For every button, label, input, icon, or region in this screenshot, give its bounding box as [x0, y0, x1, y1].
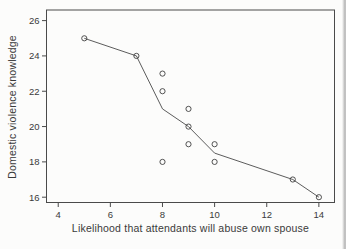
- x-tick-label: 8: [160, 209, 165, 220]
- data-point: [186, 142, 191, 147]
- mean-trace-line: [84, 38, 319, 197]
- y-tick-label: 22: [29, 86, 40, 97]
- plot-border: [47, 10, 335, 203]
- x-tick-label: 4: [56, 209, 61, 220]
- x-axis-title: Likelihood that attendants will abuse ow…: [72, 222, 309, 234]
- data-point: [212, 142, 217, 147]
- y-axis-title: Domestic violence knowledge: [6, 35, 18, 179]
- data-point: [160, 71, 165, 76]
- y-tick-label: 16: [29, 192, 40, 203]
- x-tick-label: 10: [209, 209, 220, 220]
- y-tick-label: 24: [29, 50, 40, 61]
- data-point: [186, 106, 191, 111]
- scatter-plot: Domestic violence knowledge Likelihood t…: [0, 0, 346, 249]
- y-tick-label: 20: [29, 121, 40, 132]
- x-tick-label: 6: [108, 209, 113, 220]
- page-edge-shadow: [342, 0, 346, 249]
- y-tick-label: 26: [29, 15, 40, 26]
- y-tick-label: 18: [29, 156, 40, 167]
- figure: Domestic violence knowledge Likelihood t…: [0, 0, 346, 249]
- data-point: [212, 159, 217, 164]
- x-tick-label: 14: [314, 209, 325, 220]
- data-point: [160, 89, 165, 94]
- x-tick-label: 12: [261, 209, 272, 220]
- data-point: [160, 159, 165, 164]
